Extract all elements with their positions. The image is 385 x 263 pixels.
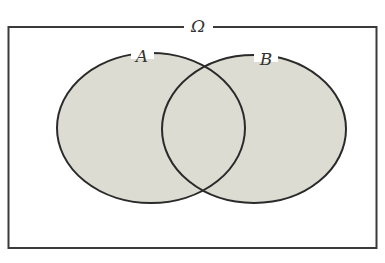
venn-diagram: Ω A B xyxy=(0,0,385,263)
set-b-label: B xyxy=(259,49,273,69)
set-a-label: A xyxy=(134,46,148,66)
universe-label: Ω xyxy=(190,16,205,36)
